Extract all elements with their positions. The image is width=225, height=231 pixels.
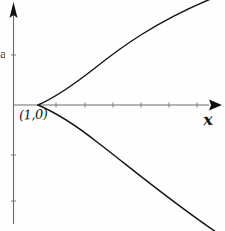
parabola-figure: (1,0) x a (0, 0, 225, 231)
parabola-upper-branch (38, 0, 213, 105)
vertex-point-label: (1,0) (19, 106, 48, 122)
cropped-edge-text-artifact: a (0, 50, 5, 59)
parabola-lower-branch (38, 105, 216, 231)
x-axis-label: x (202, 110, 213, 130)
